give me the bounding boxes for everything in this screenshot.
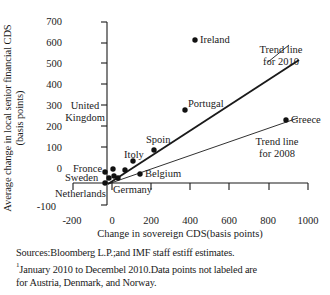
- trend-2010-label-line1: Trend line: [259, 44, 302, 55]
- label-italy: Itoly: [124, 149, 144, 160]
- source-note-line2-text: January 2010 to Decembel 2010.Data point…: [19, 264, 257, 275]
- x-axis-title: Change in sovereign CDS(basis points): [55, 228, 305, 239]
- point-netherlands: [102, 180, 107, 185]
- chart-figure: Average change in local senior financial…: [0, 0, 330, 295]
- label-netherlands: Netherlands: [55, 188, 106, 199]
- point-greece: [283, 117, 288, 122]
- trend-2008-label: Trend line for 2008: [246, 136, 308, 160]
- point-france: [110, 166, 115, 171]
- label-sweden: Sweden: [65, 172, 98, 183]
- trend-2008-label-line2: for 2008: [259, 148, 295, 159]
- label-ireland: Ireland: [200, 34, 230, 45]
- trend-2010-label-line2: for 2010: [263, 56, 299, 67]
- source-note-line1: Sources:Bloomberg L.P.;and IMF staff est…: [16, 246, 328, 259]
- label-united-kingdom: United Kingdom: [62, 100, 108, 124]
- point-spain: [151, 147, 156, 152]
- label-united-kingdom-line2: Kingdom: [65, 112, 105, 123]
- point-germany: [115, 175, 120, 180]
- source-notes: Sources:Bloomberg L.P.;and IMF staff est…: [16, 246, 328, 290]
- point-ireland: [192, 37, 197, 42]
- trend-2010-label: Trend line for 2010: [250, 44, 312, 68]
- point-belgium: [137, 171, 142, 176]
- label-germany: Germany: [113, 184, 152, 195]
- trend-line-2010: [108, 60, 299, 184]
- point-sweden: [102, 169, 107, 174]
- label-united-kingdom-line1: United: [71, 100, 100, 111]
- trend-2008-label-line1: Trend line: [255, 136, 298, 147]
- label-portugal: Portugal: [188, 98, 224, 109]
- label-greece: Greece: [291, 114, 321, 125]
- source-note-line2: 1January 2010 to Decembel 2010.Data poin…: [16, 259, 328, 276]
- label-belgium: Belgium: [145, 168, 181, 179]
- source-note-line3: for Austria, Denmark, and Norway.: [16, 276, 328, 289]
- point-unlabeled-3: [106, 175, 111, 180]
- point-portugal: [182, 107, 187, 112]
- point-unlabeled-1: [122, 167, 127, 172]
- label-spain: Spoin: [146, 134, 171, 145]
